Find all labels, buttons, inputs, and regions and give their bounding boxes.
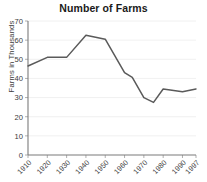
x-tick-label: 1930 [54,158,72,176]
x-tick-label: 1997 [183,158,201,176]
x-tick-label: 1960 [112,158,130,176]
chart-container: Number of Farms Farms in Thousands 01020… [0,0,207,182]
y-tick-label: 20 [15,113,23,122]
data-series-line [28,35,196,102]
x-tick-label: 1970 [131,158,149,176]
y-tick-label: 40 [15,74,23,83]
y-tick-label: 60 [15,36,23,45]
x-tick-label: 1950 [93,158,111,176]
plot-area: 010203040506070 191019201930194019501960… [0,0,207,182]
x-axis-ticks: 1910192019301940195019601970198019901997 [15,155,201,176]
y-tick-label: 30 [15,93,23,102]
gridlines [28,21,196,136]
y-axis-ticks: 010203040506070 [15,17,28,160]
y-tick-label: 0 [19,151,23,160]
y-tick-label: 70 [15,17,23,26]
x-tick-label: 1920 [35,158,53,176]
x-tick-label: 1980 [151,158,169,176]
x-tick-label: 1910 [15,158,33,176]
x-tick-label: 1940 [73,158,91,176]
y-tick-label: 50 [15,55,23,64]
y-tick-label: 10 [15,132,23,141]
